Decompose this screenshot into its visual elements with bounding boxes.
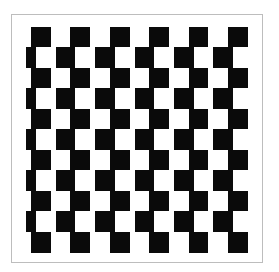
white-square bbox=[194, 170, 214, 191]
black-square bbox=[149, 150, 169, 171]
black-square bbox=[189, 27, 209, 48]
black-square bbox=[213, 88, 233, 109]
white-square bbox=[169, 191, 189, 212]
board-row bbox=[0, 68, 279, 89]
white-square bbox=[194, 47, 214, 68]
black-square bbox=[174, 211, 194, 232]
checkerboard bbox=[0, 0, 279, 272]
black-square bbox=[70, 109, 90, 130]
black-square bbox=[56, 211, 76, 232]
black-square bbox=[26, 170, 36, 191]
black-square bbox=[56, 170, 76, 191]
board-row bbox=[0, 129, 279, 150]
board-row bbox=[0, 109, 279, 130]
white-square bbox=[233, 170, 248, 191]
black-square bbox=[135, 170, 155, 191]
white-square bbox=[169, 27, 189, 48]
black-square bbox=[70, 27, 90, 48]
white-square bbox=[208, 191, 228, 212]
black-square bbox=[228, 109, 248, 130]
black-square bbox=[70, 68, 90, 89]
black-square bbox=[56, 88, 76, 109]
black-square bbox=[135, 88, 155, 109]
black-square bbox=[110, 232, 130, 253]
white-square bbox=[90, 27, 110, 48]
black-square bbox=[95, 211, 115, 232]
black-square bbox=[31, 27, 51, 48]
white-square bbox=[90, 109, 110, 130]
white-square bbox=[75, 47, 95, 68]
black-square bbox=[228, 68, 248, 89]
black-square bbox=[135, 211, 155, 232]
black-square bbox=[149, 27, 169, 48]
white-square bbox=[130, 27, 150, 48]
black-square bbox=[189, 68, 209, 89]
black-square bbox=[110, 150, 130, 171]
black-square bbox=[70, 232, 90, 253]
black-square bbox=[213, 47, 233, 68]
white-square bbox=[115, 211, 135, 232]
white-square bbox=[115, 129, 135, 150]
white-square bbox=[75, 170, 95, 191]
black-square bbox=[95, 88, 115, 109]
black-square bbox=[228, 232, 248, 253]
board-row bbox=[0, 150, 279, 171]
white-square bbox=[115, 47, 135, 68]
white-square bbox=[90, 232, 110, 253]
black-square bbox=[95, 129, 115, 150]
black-square bbox=[189, 150, 209, 171]
white-square bbox=[51, 27, 71, 48]
black-square bbox=[149, 109, 169, 130]
white-square bbox=[154, 88, 174, 109]
white-square bbox=[51, 150, 71, 171]
black-square bbox=[31, 68, 51, 89]
black-square bbox=[110, 27, 130, 48]
white-square bbox=[75, 88, 95, 109]
black-square bbox=[70, 191, 90, 212]
black-square bbox=[110, 109, 130, 130]
black-square bbox=[174, 88, 194, 109]
board-row bbox=[0, 47, 279, 68]
white-square bbox=[154, 170, 174, 191]
black-square bbox=[70, 150, 90, 171]
black-square bbox=[110, 68, 130, 89]
black-square bbox=[31, 232, 51, 253]
board-row bbox=[0, 232, 279, 253]
white-square bbox=[115, 170, 135, 191]
black-square bbox=[213, 129, 233, 150]
white-square bbox=[130, 109, 150, 130]
black-square bbox=[149, 68, 169, 89]
black-square bbox=[135, 129, 155, 150]
black-square bbox=[26, 47, 36, 68]
white-square bbox=[208, 150, 228, 171]
black-square bbox=[228, 150, 248, 171]
board-row bbox=[0, 211, 279, 232]
black-square bbox=[189, 232, 209, 253]
white-square bbox=[194, 88, 214, 109]
white-square bbox=[36, 88, 56, 109]
white-square bbox=[130, 191, 150, 212]
black-square bbox=[26, 129, 36, 150]
black-square bbox=[189, 191, 209, 212]
white-square bbox=[208, 109, 228, 130]
black-square bbox=[135, 47, 155, 68]
board-row bbox=[0, 88, 279, 109]
black-square bbox=[110, 191, 130, 212]
white-square bbox=[169, 109, 189, 130]
white-square bbox=[130, 150, 150, 171]
black-square bbox=[95, 47, 115, 68]
white-square bbox=[154, 129, 174, 150]
black-square bbox=[228, 27, 248, 48]
white-square bbox=[169, 68, 189, 89]
black-square bbox=[56, 47, 76, 68]
white-square bbox=[233, 129, 248, 150]
white-square bbox=[51, 232, 71, 253]
white-square bbox=[208, 27, 228, 48]
white-square bbox=[36, 47, 56, 68]
black-square bbox=[149, 191, 169, 212]
black-square bbox=[31, 191, 51, 212]
black-square bbox=[174, 47, 194, 68]
white-square bbox=[51, 68, 71, 89]
white-square bbox=[208, 68, 228, 89]
black-square bbox=[228, 191, 248, 212]
